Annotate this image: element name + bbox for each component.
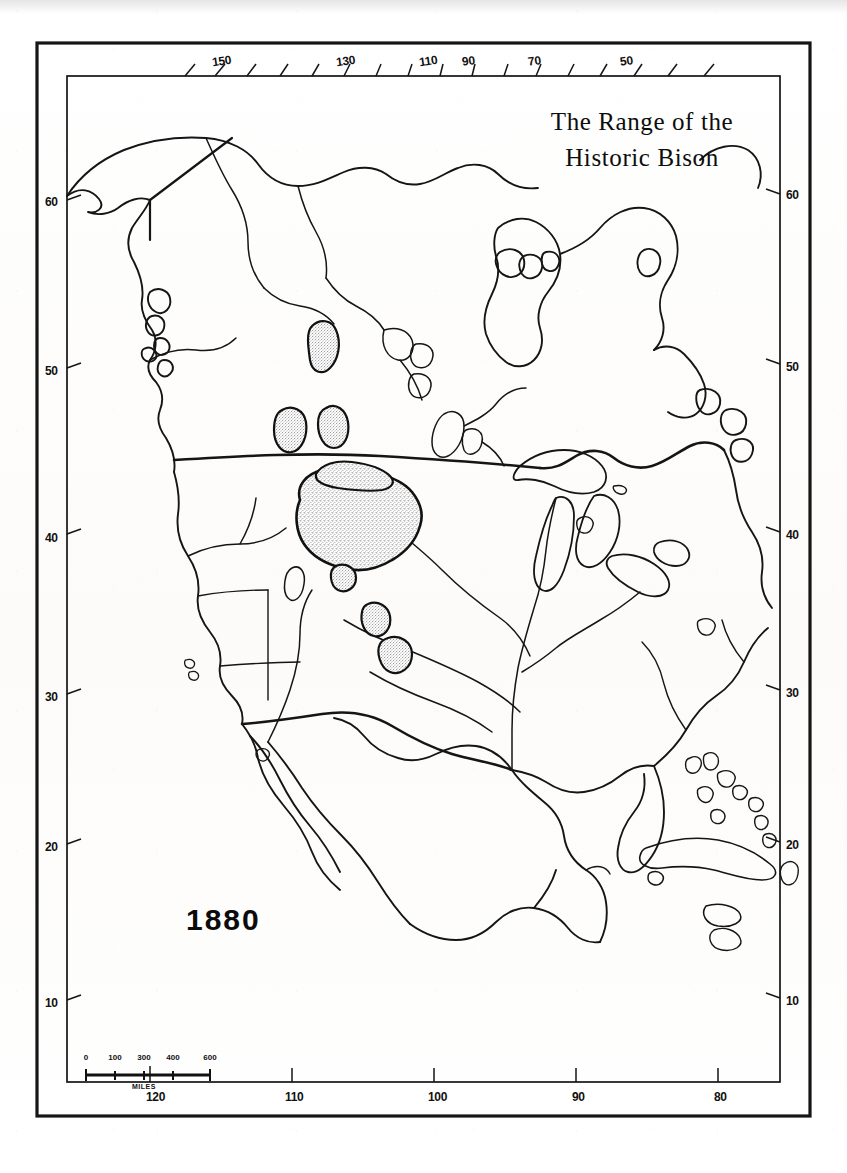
axis-label-bottom-100: 100 <box>428 1090 447 1104</box>
northern-range-patch-1 <box>308 321 339 372</box>
scale-bar-units: MILES <box>132 1083 156 1090</box>
map-date-label: 1880 <box>186 903 261 937</box>
southern-range-patch-2 <box>378 637 412 673</box>
axis-label-right-40: 40 <box>786 528 799 542</box>
scale-tick-0: 0 <box>84 1053 88 1062</box>
axis-label-left-20: 20 <box>45 840 58 854</box>
scale-bar-tick-labels: 0100300400600 <box>86 1053 218 1066</box>
scale-tick-300: 300 <box>137 1053 150 1062</box>
axis-label-bottom-110: 110 <box>285 1090 303 1104</box>
axis-label-right-10: 10 <box>786 994 799 1008</box>
scale-bar: 0100300400600 MILES <box>86 1053 218 1097</box>
axis-label-bottom-80: 80 <box>714 1090 727 1104</box>
page-title: The Range of the Historic Bison <box>497 104 787 175</box>
axis-label-left-10: 10 <box>45 996 58 1010</box>
north-america-map-graphic <box>0 0 847 1173</box>
scale-tick-600: 600 <box>203 1053 216 1062</box>
axis-label-top-130: 130 <box>335 53 356 70</box>
axis-label-top-70: 70 <box>527 53 542 69</box>
graticule-ticks-left <box>67 195 81 1000</box>
axis-label-bottom-90: 90 <box>572 1090 585 1104</box>
axis-label-top-110: 110 <box>418 53 438 69</box>
northern-range-patch-2 <box>274 408 306 453</box>
northern-range-patch-3 <box>318 406 348 448</box>
continent-outlines <box>67 138 798 951</box>
axis-label-left-40: 40 <box>45 531 58 545</box>
bison-range-regions <box>274 321 422 673</box>
axis-label-right-30: 30 <box>786 686 799 700</box>
southern-range-patch-1 <box>362 603 391 637</box>
range-patch-central <box>331 565 356 592</box>
axis-label-top-90: 90 <box>461 53 476 69</box>
axis-label-left-60: 60 <box>45 195 58 209</box>
axis-label-top-50: 50 <box>619 53 634 69</box>
scale-tick-400: 400 <box>166 1053 179 1062</box>
axis-label-left-30: 30 <box>45 690 58 704</box>
scale-tick-100: 100 <box>108 1053 121 1062</box>
axis-label-top-150: 150 <box>211 53 232 70</box>
map-frame <box>37 43 810 1116</box>
graticule-ticks-top <box>185 64 714 76</box>
main-bison-range <box>297 462 422 570</box>
title-line-1: The Range of the <box>497 104 787 140</box>
title-line-2: Historic Bison <box>497 140 787 176</box>
axis-label-right-60: 60 <box>786 188 799 202</box>
graticule-ticks-bottom <box>150 1066 718 1082</box>
axis-label-right-20: 20 <box>786 838 799 852</box>
map-page: The Range of the Historic Bison 1880 150… <box>0 0 847 1173</box>
axis-label-right-50: 50 <box>786 360 799 374</box>
axis-label-left-50: 50 <box>45 364 58 378</box>
